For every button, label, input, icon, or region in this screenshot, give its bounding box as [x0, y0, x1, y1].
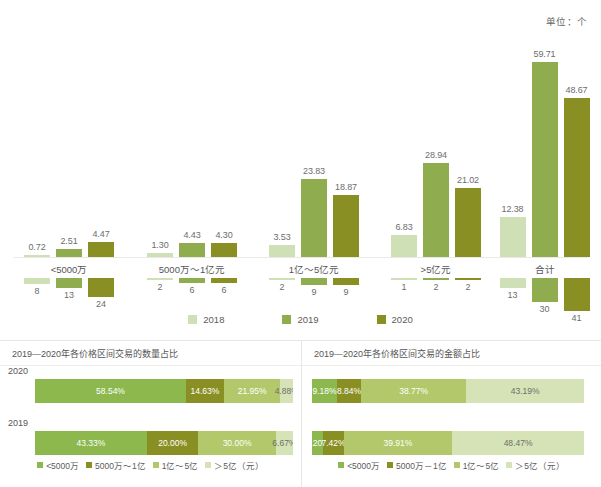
- legend-item[interactable]: 1亿～5亿: [153, 459, 198, 471]
- count-value-label: 2: [279, 282, 284, 292]
- count-bar[interactable]: [532, 278, 558, 302]
- count-bars: 299: [258, 278, 370, 297]
- amount-bar[interactable]: [56, 249, 82, 257]
- amount-bar[interactable]: [333, 195, 359, 257]
- count-bar-item[interactable]: 6: [179, 278, 205, 295]
- amount-bar[interactable]: [423, 163, 449, 258]
- count-bar[interactable]: [147, 278, 173, 280]
- count-bar-item[interactable]: 13: [56, 278, 82, 300]
- amount-bar[interactable]: [391, 235, 417, 257]
- amount-bar[interactable]: [532, 62, 558, 257]
- count-bar[interactable]: [24, 278, 50, 284]
- stacked-segment[interactable]: 30.00%: [198, 431, 275, 455]
- stacked-segment[interactable]: 58.54%: [35, 379, 186, 403]
- legend-item[interactable]: ＞5亿（元）: [205, 459, 264, 471]
- legend-item[interactable]: 1亿～5亿: [454, 459, 499, 471]
- count-bar-item[interactable]: 9: [333, 278, 359, 297]
- count-bar[interactable]: [391, 278, 417, 280]
- amount-bar-item[interactable]: 23.83: [301, 166, 327, 257]
- category-label: >5亿元: [380, 262, 492, 276]
- amount-bar[interactable]: [500, 217, 526, 257]
- stacked-segment[interactable]: 7.42%: [323, 431, 343, 455]
- amount-bar-item[interactable]: 48.67: [564, 85, 590, 257]
- count-bar-item[interactable]: 9: [301, 278, 327, 297]
- count-bar-item[interactable]: 2: [147, 278, 173, 292]
- amount-bar[interactable]: [301, 179, 327, 257]
- count-bar-item[interactable]: 24: [88, 278, 114, 309]
- amount-bar-item[interactable]: 6.83: [391, 222, 417, 257]
- count-bar[interactable]: [179, 278, 205, 283]
- amount-bar-item[interactable]: 28.94: [423, 150, 449, 258]
- legend-item[interactable]: 5000万－1亿: [387, 459, 447, 471]
- share-row: 202058.54%14.63%21.95%4.88%: [0, 379, 301, 405]
- legend-label: ＞5亿（元）: [515, 459, 565, 471]
- amount-bar-item[interactable]: 4.43: [179, 230, 205, 257]
- legend-item[interactable]: <5000万: [338, 459, 380, 471]
- count-bar[interactable]: [88, 278, 114, 297]
- stacked-segment[interactable]: 6.67%: [276, 431, 293, 455]
- count-bar[interactable]: [455, 278, 481, 280]
- amount-bar-item[interactable]: 59.71: [532, 49, 558, 257]
- count-bar[interactable]: [333, 278, 359, 285]
- amount-bar-item[interactable]: 21.02: [455, 175, 481, 257]
- amount-bar-item[interactable]: 18.87: [333, 182, 359, 257]
- panel-divider: [0, 365, 301, 366]
- count-bar[interactable]: [211, 278, 237, 283]
- count-bar[interactable]: [564, 278, 590, 311]
- bar-group: 0.722.514.47<5000万81324: [14, 0, 124, 336]
- stacked-segment[interactable]: 38.77%: [361, 379, 466, 403]
- stacked-segment[interactable]: 20.00%: [147, 431, 199, 455]
- stacked-segment[interactable]: 39.91%: [344, 431, 453, 455]
- count-bar-item[interactable]: 2: [455, 278, 481, 292]
- count-bar-item[interactable]: 13: [500, 278, 526, 300]
- legend-item-2018[interactable]: 2018: [188, 314, 224, 325]
- stacked-segment[interactable]: 8.84%: [337, 379, 361, 403]
- amount-bar[interactable]: [179, 243, 205, 257]
- amount-bar[interactable]: [24, 255, 50, 257]
- legend-label-2019: 2019: [297, 314, 318, 325]
- amount-bar-item[interactable]: 12.38: [500, 204, 526, 257]
- count-bar-item[interactable]: 2: [269, 278, 295, 292]
- amount-bar[interactable]: [564, 98, 590, 257]
- amount-bar-item[interactable]: 4.30: [211, 230, 237, 257]
- legend-item-2020[interactable]: 2020: [377, 314, 413, 325]
- amount-bar-item[interactable]: 3.53: [269, 232, 295, 257]
- amount-bar[interactable]: [269, 245, 295, 257]
- amount-bar[interactable]: [147, 253, 173, 257]
- stacked-segment[interactable]: 21.95%: [224, 379, 281, 403]
- count-bar[interactable]: [56, 278, 82, 288]
- amount-bar[interactable]: [88, 242, 114, 257]
- legend-item[interactable]: 5000万～1亿: [86, 459, 146, 471]
- count-bar-item[interactable]: 2: [423, 278, 449, 292]
- legend-label-2020: 2020: [392, 314, 413, 325]
- amount-bar-item[interactable]: 2.51: [56, 236, 82, 257]
- count-bar[interactable]: [423, 278, 449, 280]
- count-share-panel: 2019—2020年各价格区间交易的数量占比 202058.54%14.63%2…: [0, 340, 301, 487]
- amount-bar[interactable]: [211, 243, 237, 257]
- stacked-segment[interactable]: 4.88%: [280, 379, 293, 403]
- amount-bar-item[interactable]: 4.47: [88, 229, 114, 257]
- legend-item[interactable]: ＞5亿（元）: [506, 459, 565, 471]
- count-bar-item[interactable]: 6: [211, 278, 237, 295]
- count-bar-item[interactable]: 8: [24, 278, 50, 296]
- count-bar[interactable]: [301, 278, 327, 285]
- legend-item-2019[interactable]: 2019: [282, 314, 318, 325]
- count-bar-item[interactable]: 1: [391, 278, 417, 292]
- legend-item[interactable]: <5000万: [37, 459, 79, 471]
- amount-bar[interactable]: [455, 188, 481, 257]
- stacked-segment[interactable]: 48.47%: [452, 431, 584, 455]
- stacked-segment[interactable]: 14.63%: [186, 379, 224, 403]
- legend-swatch: [153, 462, 159, 468]
- stacked-segment[interactable]: 43.19%: [466, 379, 583, 403]
- amount-bar-item[interactable]: 1.30: [147, 240, 173, 257]
- amount-value-label: 3.53: [273, 232, 290, 242]
- amount-bars: 12.3859.7148.67: [492, 49, 597, 257]
- amount-value-label: 1.30: [151, 240, 168, 250]
- count-bar[interactable]: [269, 278, 295, 280]
- count-bar-item[interactable]: 30: [532, 278, 558, 314]
- stacked-segment[interactable]: 43.33%: [35, 431, 147, 455]
- count-bars: 266: [136, 278, 248, 295]
- amount-bar-item[interactable]: 0.72: [24, 242, 50, 257]
- stacked-segment[interactable]: 9.18%: [312, 379, 337, 403]
- count-bar[interactable]: [500, 278, 526, 288]
